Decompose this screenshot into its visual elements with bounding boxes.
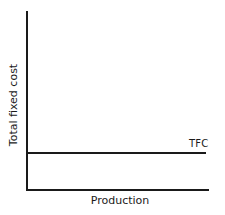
x-axis (26, 189, 209, 191)
tfc-line-label: TFC (189, 138, 208, 149)
y-axis (26, 11, 28, 190)
x-axis-label: Production (0, 194, 225, 207)
tfc-chart: TFC Production Total fixed cost (0, 0, 225, 215)
tfc-line (27, 152, 206, 154)
y-axis-label: Total fixed cost (7, 64, 20, 146)
